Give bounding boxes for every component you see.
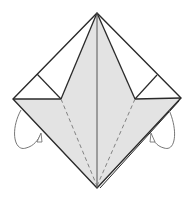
origami-diagram	[0, 0, 188, 199]
right-arrowhead-icon	[150, 133, 155, 142]
left-arrowhead-icon	[37, 133, 42, 142]
left-corner-triangle-crease	[37, 74, 61, 99]
right-corner-triangle-crease	[135, 75, 157, 99]
